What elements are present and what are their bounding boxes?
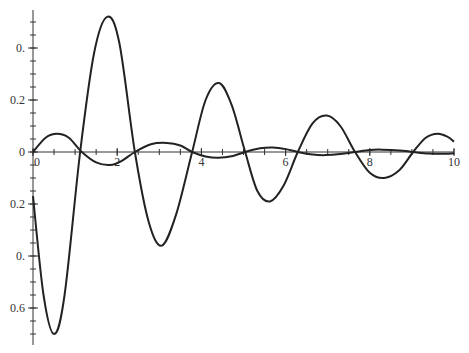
line-chart: 0.0.200.20.0.6 0246810	[0, 0, 469, 353]
y-tick-label: 0.6	[10, 301, 25, 315]
x-tick-label: 6	[283, 155, 289, 169]
y-tick-label: 0.	[16, 41, 25, 55]
y-tick-label: 0.2	[10, 197, 25, 211]
x-tick-label: 8	[367, 155, 373, 169]
x-tick-label: 4	[198, 155, 204, 169]
y-tick-label: 0.	[16, 249, 25, 263]
x-tick-label: 0	[34, 155, 40, 169]
y-tick-label: 0.2	[10, 93, 25, 107]
x-tick-label: 10	[448, 155, 460, 169]
series-group	[33, 16, 454, 334]
series-line-large-oscillation	[33, 16, 454, 334]
y-axis: 0.0.200.20.0.6	[10, 10, 38, 345]
y-tick-label: 0	[19, 145, 25, 159]
